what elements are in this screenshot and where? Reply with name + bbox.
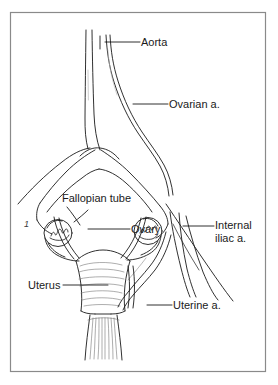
canvas-background: [0, 0, 278, 385]
label-ovarian-artery: Ovarian a.: [169, 98, 220, 110]
anatomy-diagram: Aorta Ovarian a. Fallopian tube Ovary In…: [0, 0, 278, 385]
label-uterine-artery: Uterine a.: [173, 299, 221, 311]
label-internal-iliac-line2: iliac a.: [215, 232, 246, 244]
label-aorta: Aorta: [141, 36, 168, 48]
label-fallopian-tube: Fallopian tube: [62, 192, 131, 204]
label-uterus: Uterus: [28, 279, 61, 291]
label-internal-iliac-line1: Internal: [215, 219, 252, 231]
label-marker-one: 1: [24, 219, 29, 229]
figure-root: Aorta Ovarian a. Fallopian tube Ovary In…: [0, 0, 278, 385]
label-ovary: Ovary: [131, 223, 161, 235]
